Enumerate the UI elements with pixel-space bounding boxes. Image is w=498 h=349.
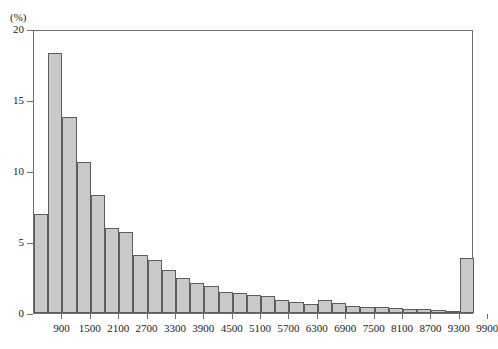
histogram-bar bbox=[48, 53, 62, 313]
histogram-bar bbox=[119, 232, 133, 313]
x-axis-tick bbox=[61, 314, 62, 319]
histogram-bar bbox=[148, 260, 162, 313]
y-axis-tick-label: 20 bbox=[0, 24, 24, 35]
x-axis-tick-label: 1500 bbox=[79, 322, 101, 334]
x-axis-tick bbox=[232, 314, 233, 319]
x-axis-tick-label: 2100 bbox=[107, 322, 129, 334]
histogram-bar bbox=[77, 162, 91, 313]
plot-area bbox=[34, 31, 472, 313]
x-axis-tick bbox=[288, 314, 289, 319]
x-axis-tick-label: 6300 bbox=[306, 322, 328, 334]
x-axis-tick-label: 4500 bbox=[221, 322, 243, 334]
x-axis-tick-label: 3300 bbox=[164, 322, 186, 334]
x-axis-tick bbox=[459, 314, 460, 319]
histogram-bar bbox=[375, 307, 389, 313]
histogram-bar bbox=[304, 304, 318, 313]
histogram-bar bbox=[62, 117, 76, 313]
histogram-bar bbox=[460, 258, 474, 313]
x-axis-tick bbox=[203, 314, 204, 319]
histogram-bar bbox=[389, 308, 403, 313]
histogram-bar bbox=[275, 300, 289, 313]
x-axis-tick bbox=[374, 314, 375, 319]
x-axis-tick-label: 900 bbox=[53, 322, 70, 334]
y-axis-tick-label: 15 bbox=[0, 95, 24, 106]
x-axis-tick bbox=[118, 314, 119, 319]
x-axis-tick bbox=[147, 314, 148, 319]
histogram-bar bbox=[105, 228, 119, 313]
x-axis-tick bbox=[90, 314, 91, 319]
histogram-bar bbox=[162, 270, 176, 313]
x-axis-tick bbox=[487, 314, 488, 319]
histogram-bar bbox=[219, 292, 233, 313]
histogram-bar bbox=[346, 306, 360, 313]
x-axis-tick-label: 6900 bbox=[334, 322, 356, 334]
histogram-bar bbox=[446, 311, 460, 313]
y-axis-tick-label: 5 bbox=[0, 237, 24, 248]
x-axis-tick-label: 5700 bbox=[277, 322, 299, 334]
histogram-bar bbox=[332, 303, 346, 313]
histogram-bar bbox=[318, 300, 332, 313]
plot-frame bbox=[33, 30, 473, 314]
y-axis-unit-label: (%) bbox=[10, 12, 27, 23]
x-axis-tick bbox=[402, 314, 403, 319]
histogram-bar bbox=[233, 293, 247, 313]
histogram-bar bbox=[289, 302, 303, 313]
histogram-bar bbox=[247, 295, 261, 313]
x-axis-tick bbox=[430, 314, 431, 319]
x-axis-tick bbox=[317, 314, 318, 319]
x-axis-tick-label: 5100 bbox=[249, 322, 271, 334]
x-axis-tick bbox=[345, 314, 346, 319]
histogram-bar bbox=[176, 278, 190, 314]
x-axis-tick-label: 8100 bbox=[391, 322, 413, 334]
histogram-bar bbox=[190, 283, 204, 313]
y-axis-tick bbox=[27, 314, 33, 315]
x-axis-tick bbox=[260, 314, 261, 319]
histogram-bar bbox=[261, 296, 275, 313]
x-axis-tick-label: 8700 bbox=[419, 322, 441, 334]
histogram-bar bbox=[360, 307, 374, 313]
x-axis-tick-label: 9300 bbox=[448, 322, 470, 334]
x-axis-tick-label: 2700 bbox=[136, 322, 158, 334]
x-axis-tick-label: 3900 bbox=[192, 322, 214, 334]
histogram-bar bbox=[204, 286, 218, 313]
histogram-bar bbox=[34, 214, 48, 313]
histogram-bar bbox=[133, 255, 147, 313]
histogram-bar bbox=[417, 309, 431, 313]
x-axis-tick bbox=[175, 314, 176, 319]
x-axis-tick-label: 7500 bbox=[363, 322, 385, 334]
y-axis-tick-label: 10 bbox=[0, 166, 24, 177]
histogram-bar bbox=[403, 309, 417, 313]
y-axis-tick-label: 0 bbox=[0, 308, 24, 319]
histogram-bar bbox=[431, 310, 445, 313]
x-axis-tick-label: 9900 bbox=[476, 322, 498, 334]
histogram-bar bbox=[91, 195, 105, 313]
